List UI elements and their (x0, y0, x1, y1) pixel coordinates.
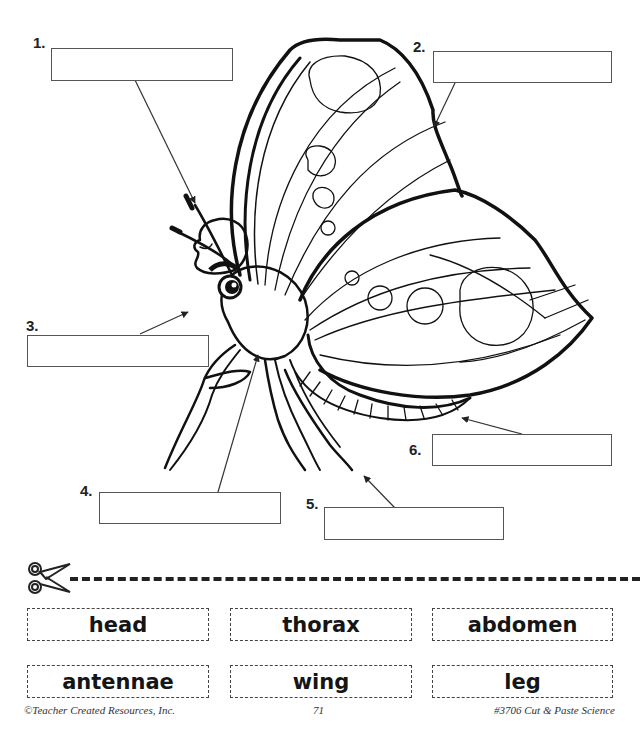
label-number-5: 5. (306, 495, 319, 512)
word-card-thorax[interactable]: thorax (230, 608, 412, 641)
answer-box-2[interactable] (433, 51, 612, 83)
butterfly-illustration (0, 0, 640, 560)
scissors-icon (26, 560, 72, 596)
label-number-6: 6. (409, 441, 422, 458)
word-card-head[interactable]: head (27, 608, 209, 641)
answer-box-5[interactable] (324, 507, 504, 540)
word-card-antennae[interactable]: antennae (27, 665, 209, 698)
answer-box-1[interactable] (51, 48, 233, 81)
answer-box-3[interactable] (27, 335, 209, 367)
cut-line (70, 577, 640, 581)
label-number-3: 3. (26, 317, 39, 334)
label-number-2: 2. (413, 38, 426, 55)
label-number-1: 1. (33, 34, 46, 51)
footer-page-number: 71 (313, 704, 324, 716)
answer-box-6[interactable] (432, 434, 612, 466)
label-number-4: 4. (80, 482, 93, 499)
word-card-wing[interactable]: wing (230, 665, 412, 698)
footer-book-title: #3706 Cut & Paste Science (494, 704, 615, 716)
word-card-abdomen[interactable]: abdomen (432, 608, 613, 641)
answer-box-4[interactable] (99, 492, 281, 524)
word-card-leg[interactable]: leg (432, 665, 613, 698)
footer-copyright: ©Teacher Created Resources, Inc. (24, 704, 175, 716)
